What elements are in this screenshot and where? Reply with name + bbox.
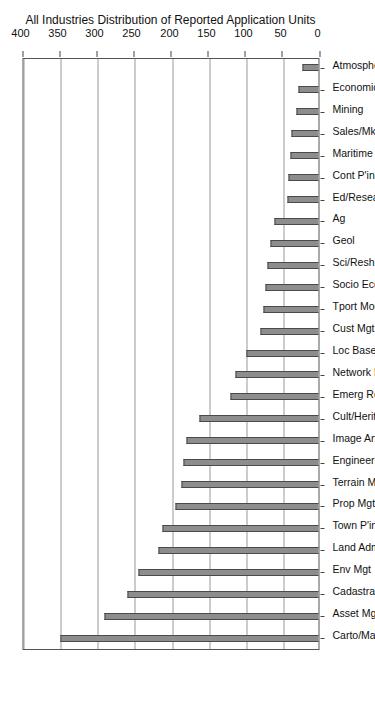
category-axis-tick: [320, 200, 324, 201]
bar-slot: [23, 298, 318, 320]
category-axis-tick: [320, 594, 324, 595]
category-axis-tick: [320, 221, 324, 222]
bar[interactable]: [287, 196, 318, 203]
category-axis-tick: [320, 134, 324, 135]
bar[interactable]: [162, 525, 318, 532]
bar[interactable]: [138, 569, 318, 576]
bar[interactable]: [298, 86, 318, 93]
bar[interactable]: [186, 437, 318, 444]
bar[interactable]: [265, 284, 318, 291]
category-axis-label: Emerg Resp: [332, 388, 375, 400]
bar[interactable]: [230, 393, 318, 400]
bar[interactable]: [274, 218, 318, 225]
category-axis-tick: [320, 68, 324, 69]
value-axis-tick-label: 100: [228, 27, 258, 39]
category-axis-label: Socio Econ: [332, 278, 375, 290]
category-axis-tick: [320, 375, 324, 376]
bar-slot: [23, 583, 318, 605]
bar[interactable]: [302, 64, 318, 71]
bar[interactable]: [288, 174, 318, 181]
bar[interactable]: [175, 503, 318, 510]
bar[interactable]: [260, 328, 318, 335]
category-axis-label: Terrain Mod: [332, 476, 375, 488]
bar-slot: [23, 386, 318, 408]
category-axis-tick: [320, 550, 324, 551]
bar-slot: [23, 364, 318, 386]
bar[interactable]: [181, 481, 318, 488]
category-axis-label: Tport Mod: [332, 300, 375, 312]
category-axis-label: Ag: [332, 212, 345, 224]
bar[interactable]: [127, 591, 318, 598]
value-axis-tick: [170, 51, 171, 57]
bar-slot: [23, 167, 318, 189]
bar[interactable]: [291, 130, 318, 137]
category-axis-tick: [320, 90, 324, 91]
value-axis-tick-label: 50: [265, 27, 295, 39]
category-axis-label: Engineering: [332, 454, 375, 466]
bar-slot: [23, 539, 318, 561]
category-axis-label: Land Admin: [332, 541, 375, 553]
category-axis-tick: [320, 419, 324, 420]
plot-area: [22, 58, 319, 650]
category-axis-tick: [320, 441, 324, 442]
value-axis-tick-label: 200: [154, 27, 184, 39]
category-axis-tick: [320, 331, 324, 332]
category-axis-label: Image Anal: [332, 432, 375, 444]
bar[interactable]: [60, 635, 318, 642]
value-axis-tick-label: 250: [116, 27, 146, 39]
bar-slot: [23, 189, 318, 211]
bar-slot: [23, 254, 318, 276]
category-axis-label: Sci/Resh: [332, 256, 374, 268]
value-axis-tick: [319, 51, 320, 57]
chart-page: 050100150200250300350400 Carto/MappingAs…: [0, 0, 375, 702]
bar[interactable]: [158, 547, 318, 554]
category-axis-tick: [320, 178, 324, 179]
value-axis-tick: [207, 51, 208, 57]
category-axis-label: Env Mgt: [332, 563, 371, 575]
category-axis-label: Mining: [332, 103, 363, 115]
bar-slot: [23, 320, 318, 342]
category-axis-label: Carto/Mapping: [332, 629, 375, 641]
value-axis-tick: [133, 51, 134, 57]
category-axis-label: Asset Mgt: [332, 607, 375, 619]
bar[interactable]: [296, 108, 318, 115]
bar-slot: [23, 474, 318, 496]
bar-slot: [23, 57, 318, 79]
category-axis-tick: [320, 156, 324, 157]
bar[interactable]: [246, 350, 318, 357]
bar-slot: [23, 408, 318, 430]
category-axis-tick: [320, 528, 324, 529]
bar[interactable]: [267, 262, 318, 269]
category-axis-tick: [320, 506, 324, 507]
bar[interactable]: [104, 613, 318, 620]
category-axis-label: Cust Mgt: [332, 322, 374, 334]
category-axis-label: Ed/Research: [332, 191, 375, 203]
bar-slot: [23, 627, 318, 649]
bar[interactable]: [199, 415, 318, 422]
bar[interactable]: [290, 152, 318, 159]
bar[interactable]: [183, 459, 318, 466]
value-axis-tick: [59, 51, 60, 57]
bar[interactable]: [235, 371, 318, 378]
bar-slot: [23, 123, 318, 145]
bar[interactable]: [263, 306, 318, 313]
value-axis-tick-label: 400: [5, 27, 35, 39]
value-axis-tick: [281, 51, 282, 57]
category-axis-tick: [320, 616, 324, 617]
category-axis-label: Atmospheric: [332, 59, 375, 71]
bar-slot: [23, 452, 318, 474]
category-axis-label: Cadastral Mgt: [332, 585, 375, 597]
bar-slot: [23, 561, 318, 583]
bar-slot: [23, 276, 318, 298]
category-axis-label: Geol: [332, 234, 354, 246]
value-axis-tick: [244, 51, 245, 57]
bar[interactable]: [270, 240, 318, 247]
category-axis-tick: [320, 287, 324, 288]
category-axis-tick: [320, 463, 324, 464]
value-axis-tick-label: 300: [79, 27, 109, 39]
bar-series: [23, 59, 318, 649]
value-axis-tick-label: 350: [42, 27, 72, 39]
category-axis-label: Maritime: [332, 147, 372, 159]
category-axis-tick: [320, 243, 324, 244]
bar-slot: [23, 342, 318, 364]
